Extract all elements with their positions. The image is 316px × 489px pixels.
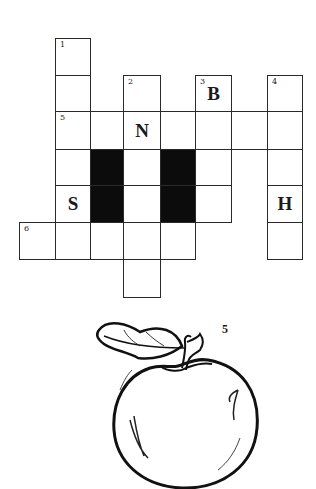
crossword-cell[interactable]: H	[267, 185, 303, 223]
clue-number: 6	[24, 225, 29, 233]
crossword-cell[interactable]	[195, 111, 232, 150]
crossword-cell[interactable]	[55, 149, 91, 186]
crossword-cell[interactable]	[123, 222, 161, 260]
cell-letter: B	[196, 76, 231, 111]
crossword-cell[interactable]	[123, 149, 161, 186]
crossword-cell[interactable]: S	[55, 185, 91, 223]
crossword-cell[interactable]	[55, 75, 91, 112]
apple-icon	[90, 310, 270, 489]
clue-number: 5	[60, 114, 65, 122]
crossword-cell[interactable]	[123, 185, 161, 223]
crossword-cell[interactable]	[55, 222, 91, 260]
crossword-cell[interactable]: 1	[55, 38, 91, 76]
clue-number: 2	[128, 78, 133, 86]
crossword-cell[interactable]: 5	[55, 111, 91, 150]
crossword-cell[interactable]: 6	[19, 222, 56, 260]
crossword-grid: 15S2N3B4H6	[0, 0, 316, 300]
crossword-cell[interactable]: 3B	[195, 75, 232, 112]
picture-clue-number: 5	[222, 322, 228, 337]
crossword-block-cell	[160, 149, 196, 186]
crossword-cell[interactable]: 4	[267, 75, 303, 112]
crossword-cell[interactable]	[90, 222, 124, 260]
crossword-cell[interactable]	[123, 259, 161, 298]
crossword-cell[interactable]	[231, 111, 268, 150]
crossword-cell[interactable]	[267, 111, 303, 150]
crossword-cell[interactable]	[90, 111, 124, 150]
crossword-block-cell	[160, 185, 196, 223]
crossword-cell[interactable]	[195, 185, 232, 223]
clue-number: 1	[60, 41, 65, 49]
cell-letter: S	[56, 186, 90, 222]
crossword-block-cell	[90, 185, 124, 223]
crossword-cell[interactable]	[267, 222, 303, 260]
crossword-cell[interactable]	[195, 149, 232, 186]
crossword-cell[interactable]: 2	[123, 75, 161, 112]
crossword-cell[interactable]: N	[123, 111, 161, 150]
cell-letter: H	[268, 186, 302, 222]
crossword-cell[interactable]	[160, 222, 196, 260]
crossword-block-cell	[90, 149, 124, 186]
crossword-cell[interactable]	[267, 149, 303, 186]
crossword-cell[interactable]	[160, 111, 196, 150]
clue-number: 4	[272, 78, 277, 86]
cell-letter: N	[124, 112, 160, 149]
